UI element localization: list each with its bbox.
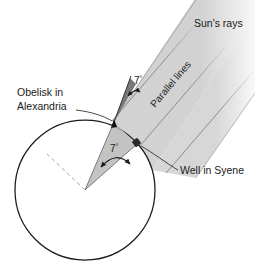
obelisk-leader-line bbox=[76, 110, 112, 121]
obelisk-label-line2: Alexandria bbox=[17, 100, 67, 112]
sun-rays-label: Sun's rays bbox=[194, 17, 243, 29]
well-label: Well in Syene bbox=[180, 164, 244, 176]
obelisk-label-line1: Obelisk in bbox=[17, 86, 63, 98]
eratosthenes-diagram: 7° 7° Sun's rays Parallel lines Obelisk … bbox=[0, 0, 255, 277]
